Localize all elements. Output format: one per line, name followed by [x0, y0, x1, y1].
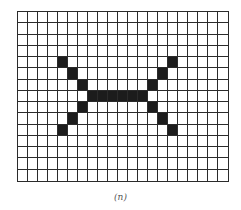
grid-cell	[148, 12, 158, 23]
grid-cell	[158, 23, 168, 34]
grid-cell	[208, 35, 218, 46]
grid-cell	[18, 80, 28, 91]
grid-cell	[88, 136, 98, 147]
grid-cell	[38, 102, 48, 113]
grid-cell	[148, 158, 158, 169]
grid-cell	[168, 170, 178, 181]
grid-cell	[118, 23, 128, 34]
grid-cell	[58, 35, 68, 46]
grid-cell	[118, 136, 128, 147]
grid-cell	[118, 147, 128, 158]
grid-cell	[78, 147, 88, 158]
grid-cell	[48, 35, 58, 46]
grid-cell	[108, 147, 118, 158]
grid-cell	[178, 46, 188, 57]
grid-cell	[108, 68, 118, 79]
grid-cell	[28, 170, 38, 181]
grid-cell	[78, 125, 88, 136]
grid-cell	[18, 46, 28, 57]
grid-cell	[78, 68, 88, 79]
grid-cell	[88, 23, 98, 34]
grid-cell	[58, 91, 68, 102]
grid-cell	[148, 125, 158, 136]
grid-cell	[128, 12, 138, 23]
grid-cell	[188, 46, 198, 57]
grid-cell	[88, 68, 98, 79]
grid-cell	[128, 80, 138, 91]
grid-cell	[28, 91, 38, 102]
grid-cell	[138, 46, 148, 57]
grid-cell	[188, 80, 198, 91]
grid-cell	[138, 113, 148, 124]
grid-cell-filled	[168, 57, 178, 68]
grid-cell	[58, 136, 68, 147]
grid-cell	[98, 113, 108, 124]
grid-cell	[138, 23, 148, 34]
grid-cell	[108, 113, 118, 124]
grid-cell	[118, 113, 128, 124]
grid-cell	[88, 102, 98, 113]
grid-cell	[168, 46, 178, 57]
grid-cell	[98, 125, 108, 136]
grid-cell	[108, 125, 118, 136]
grid-cell-filled	[88, 91, 98, 102]
grid-cell	[128, 57, 138, 68]
grid-cell	[108, 158, 118, 169]
grid-cell	[68, 170, 78, 181]
grid-cell	[38, 170, 48, 181]
grid-cell	[98, 102, 108, 113]
grid-cell	[78, 113, 88, 124]
grid-cell	[38, 158, 48, 169]
grid-cell	[218, 23, 228, 34]
grid-cell	[88, 113, 98, 124]
grid-cell	[208, 46, 218, 57]
grid-cell	[198, 113, 208, 124]
grid-cell	[38, 35, 48, 46]
grid-cell	[68, 80, 78, 91]
grid-cell	[78, 57, 88, 68]
grid-cell	[208, 23, 218, 34]
grid-cell	[28, 23, 38, 34]
grid-cell	[98, 170, 108, 181]
grid-cell	[208, 147, 218, 158]
grid-cell	[128, 125, 138, 136]
grid-cell	[18, 125, 28, 136]
grid-cell	[188, 170, 198, 181]
grid-cell	[78, 136, 88, 147]
grid-cell	[78, 91, 88, 102]
grid-cell	[198, 68, 208, 79]
grid-cell-filled	[118, 91, 128, 102]
grid-cell	[98, 136, 108, 147]
grid-cell	[48, 125, 58, 136]
grid-cell	[68, 102, 78, 113]
grid-cell	[198, 23, 208, 34]
grid-cell	[58, 102, 68, 113]
grid-cell	[148, 35, 158, 46]
grid-cell	[158, 147, 168, 158]
grid-cell	[138, 57, 148, 68]
grid-cell	[128, 136, 138, 147]
grid-cell	[28, 158, 38, 169]
grid-cell	[18, 102, 28, 113]
grid-cell	[38, 46, 48, 57]
grid-cell	[58, 170, 68, 181]
grid-cell	[88, 12, 98, 23]
grid-cell	[218, 68, 228, 79]
grid-cell	[28, 12, 38, 23]
grid-cell	[78, 35, 88, 46]
grid-cell	[128, 158, 138, 169]
grid-cell	[208, 170, 218, 181]
grid-cell	[218, 12, 228, 23]
grid-cell	[188, 12, 198, 23]
grid-cell	[188, 57, 198, 68]
grid-cell-filled	[68, 113, 78, 124]
grid-cell	[118, 170, 128, 181]
grid-cell	[148, 147, 158, 158]
grid-cell	[118, 102, 128, 113]
grid-cell	[148, 68, 158, 79]
grid-cell	[218, 102, 228, 113]
grid-cell	[68, 57, 78, 68]
grid-cell	[28, 102, 38, 113]
grid-cell	[178, 68, 188, 79]
grid-cell	[108, 35, 118, 46]
